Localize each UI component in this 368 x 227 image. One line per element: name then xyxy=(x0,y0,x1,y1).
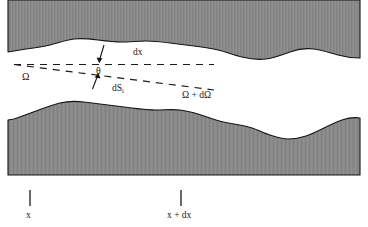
label-ds-subscript: i xyxy=(122,87,124,94)
diagram-canvas xyxy=(0,0,368,227)
stream-tube-diagram: dx θ dSi Ω Ω + dΩ x x + dx xyxy=(0,0,368,227)
label-ds: dSi xyxy=(112,84,124,94)
label-x-plus-dx: x + dx xyxy=(167,211,191,221)
label-theta: θ xyxy=(96,66,101,76)
label-omega-plus-domega: Ω + dΩ xyxy=(182,91,211,101)
label-ds-text: dS xyxy=(112,83,122,93)
label-omega: Ω xyxy=(22,72,29,82)
upper-shaded-region xyxy=(8,0,360,59)
label-dx: dx xyxy=(133,48,143,58)
lower-shaded-region xyxy=(8,101,360,175)
label-x: x xyxy=(26,211,31,221)
angle-arrow-upper xyxy=(97,45,104,63)
